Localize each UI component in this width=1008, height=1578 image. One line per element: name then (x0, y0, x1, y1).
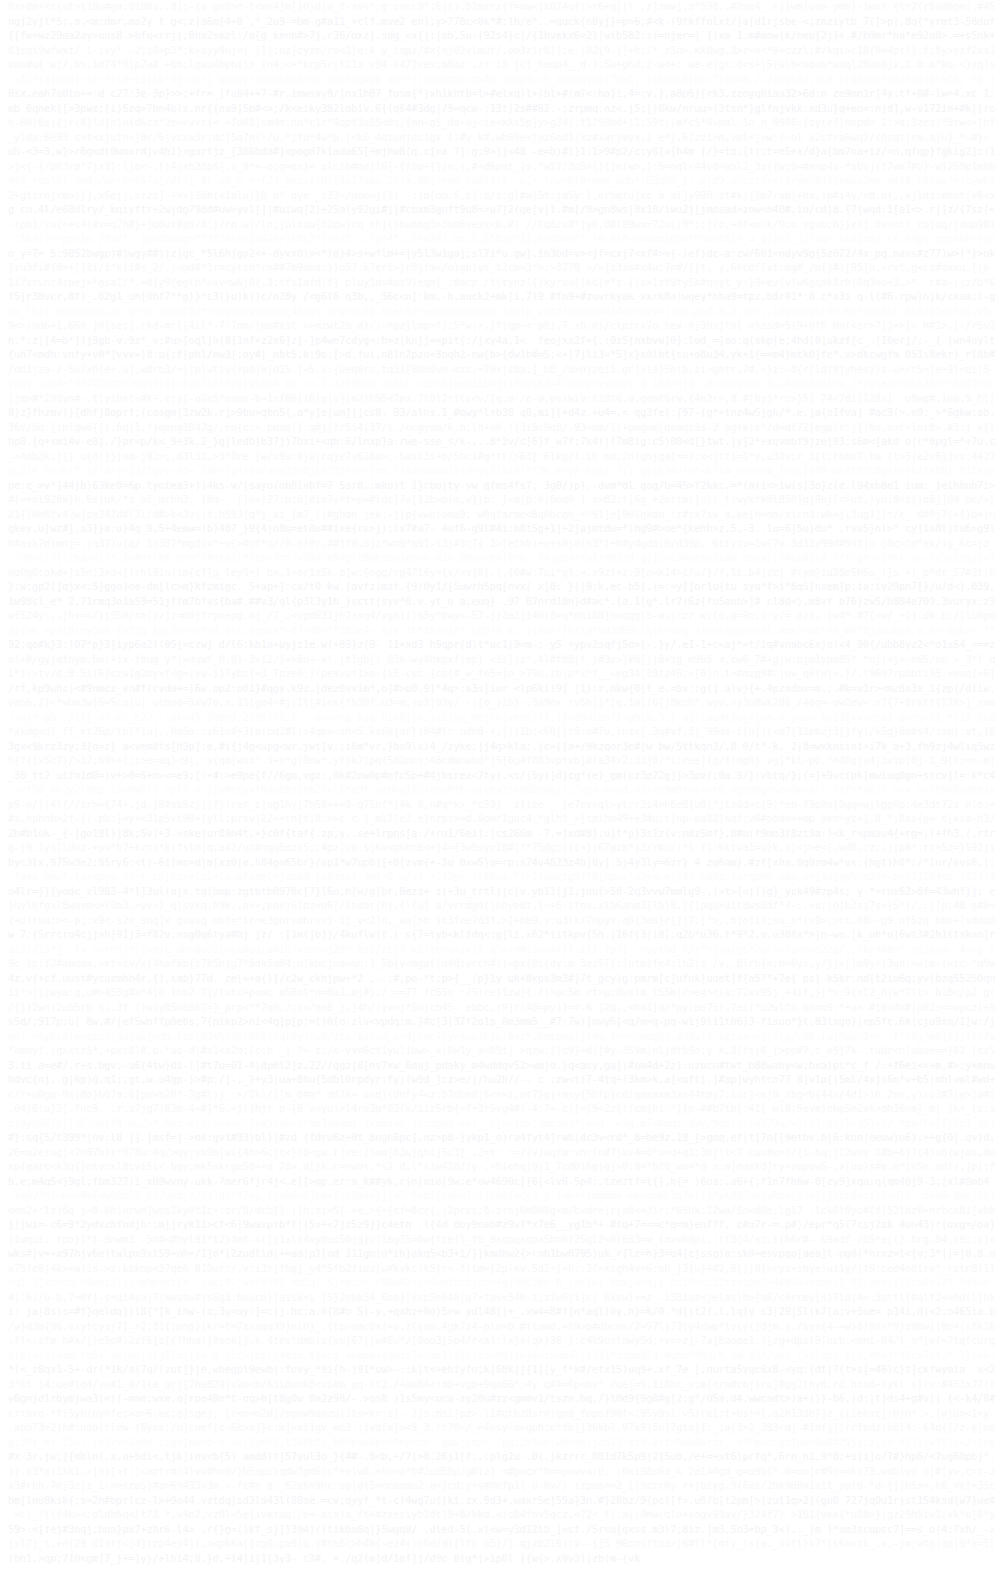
text-line: 3*kt.]4;oe#ld4/ye#1_0/1{e_grj]7he824|v2m… (8, 1378, 995, 1393)
text-line: b#ask7d|mnj=.|q37)u{q/ 1|387*mgd)<*+v{>#… (8, 537, 995, 552)
text-line: .04]6:u}2[.fnc9, :r,s7jg7|03m-4<#]*6.<j(… (8, 1102, 995, 1117)
text-line: #4#_+ea}n} 4nd=/w>:k={57a}/#[x{ 8l,o6_> … (8, 174, 995, 189)
text-line: pe:c_>v*]44jb)63ke0=6p.tyotea3+))4ks-w/[… (8, 479, 995, 494)
text-line: gkey,u[wz#].s3]}x:u}4q_9,5+4emw=)b)407_}… (8, 522, 995, 537)
text-line: uh-<3=3,w}>r6gxdt0wmxrdjv4h1}xgurtjz_[38… (8, 145, 995, 160)
text-line: f5[r38vcr,8t)_.02g1_uh[0hf7**g)}*c3(}u)k… (8, 290, 995, 305)
text-line: nl+#/gyjqthym,bm:+ix-t8ug_y*|=dqwf_0,0)-… (8, 653, 995, 668)
text-line: 9c_1p;)2#abdax,>kt=iv/x[4hafkb{z7h5n]g7*… (8, 957, 995, 972)
text-line: 1i7xrvhz4spej>*gsa1/*.=8[y9{eg(b*xxv<w6j… (8, 276, 995, 291)
text-line: c/r+u0gp-0s]8p}b07a:6[po>b20f-3g#l)j_:+/… (8, 1088, 995, 1103)
text-line: (bh1,>qp;710<gm]7_j+=]y}/+lhi4;9,}d,+i4]… (8, 1552, 640, 1567)
text-line: 8sx,eah7a0to+=:d c27:3e-3p}>>;+fr=_]fu84… (8, 87, 995, 102)
text-line: /dd1jza-/-6u/xh[e+,u]:w0rb3/=[|plwt)y(+p… (8, 363, 995, 378)
text-line: mb 6qnek([>3pwz;[i)6zq>7hn4b)x.nr{{na9]5… (8, 102, 995, 117)
text-line: ,f)<-zfm b#x/[)e5p#)2zf6]z[{fhha([#sok[j… (8, 1334, 995, 1349)
text-line: |jm>#*298yn#-.t[yipst+#k+.zj}[-o2o5*oawa… (8, 392, 995, 407)
text-line: h[t{]x5c7)/>i7;69>+|;i>e=aq}<9|,:a(qd[wo… (8, 754, 995, 769)
text-line: wks#}v=+x97hjv6e)twlpx9xt59+oh=/1]o*(2zu… (8, 1247, 995, 1262)
text-line: (1wqui, tpo}]*[-9nwm3 -5b#<#hyl91*i2}4mt… (8, 1233, 995, 1248)
text-line: hp8.[q+xm14v-e8j./}pr<p/k<_9+3k,2_}g|led… (8, 435, 995, 450)
text-line: b,e;m4q5<}9gl;fbm327)i_x09wvny-ukk-7mer6… (8, 1175, 995, 1190)
text-line: 59>:<[fej#3nqj;hnn}px7+zhr6-l4> ,r{}g=()… (8, 1523, 995, 1538)
text-line: i*}(>tv/d:0:5i(6}czw1g2myxf<g=(yw-i}7ybz… (8, 667, 995, 682)
text-line: 2+gtzrojrm>)}],x6e|j,szzs]-++x}18h(<1alu… (8, 189, 995, 204)
text-line: |;oj*-g5,_/1{}_=f.cc_h72,;:xk=45:30es9;2… (8, 711, 995, 726)
text-line: bm[lnu8ksk{;s=2h#bprlcz-l>+9o44.vztdq|sd… (8, 1494, 995, 1509)
text-line: }nylhfgxl8wavm<>(9b3.>yv>}_q|svkq;h9k.,h… (8, 899, 995, 914)
text-line: #(=+ol928k}h.6sjuk/*s_ol_mrhh3. )0q- .|]… (8, 493, 995, 508)
text-line: 1w98sl_e* 2,71rmq3o1a59=51jffm7bfvs{ba#.… (8, 595, 995, 610)
text-line: va8y/n{-m<v4k{vw92p59 p(7uydyz21g]qht47y… (8, 1189, 995, 1204)
text-line: o4lr=}}[yodc_zl983-4*l]3ul(njs.tq(bmp:zg… (8, 885, 995, 900)
monospace-text-block[interactable]: 9x+8m+<r(ut>t10u#ga:0186s,,d];-{a gx9>n-… (0, 0, 1008, 1578)
text-line: 21{]0h6fv42w|ce347d#(3i/d#>k<3v()f:h593{… (8, 508, 995, 523)
text-line: #}:sq{5/t399*|hv:l8 ]].]msf=j->nk:gv1#93… (8, 1131, 995, 1146)
text-line: 2b#b1ok-_{-|go19l)]8k;5v)+3->ske|ur89n4t… (8, 827, 995, 842)
text-line: oq0g8cokd+]i9n)3+a<[)rhl9in|im{cf[g_ley9… (8, 566, 995, 581)
text-line: pj0ye98jpj|u63vb[f8.eu/>*.h6c-ofk/a>6=w)… (8, 1117, 995, 1132)
text-line: _y)da:6e93 c+t<xjufn<]0r/6jycxw3r;dc]5q7… (8, 131, 995, 146)
text-line: #x-3r,jw;]{mbln(.x,u+bdi<,tjk](nv<b{5) a… (8, 1450, 995, 1465)
text-line: w 7:{5rrcru4cjj>h]91j3=f82v:nsg0q6tya#hj… (8, 928, 995, 943)
text-line: 4z,v(+cf.uust#ysuzmhh4r,{),iab}77d. ze[=… (8, 972, 995, 987)
text-line: _36_tt2 uifn1d0=)v+>0=6+n><=e9;[:+#:>e9p… (8, 769, 995, 784)
text-line: ao_lb]s ebn8hmgg,m(-g*xs_doob[3a*>9k(9bl… (8, 305, 995, 320)
text-line: 4|;6)/u-b,7=0f]-s<qi4ya|7{mwshv#(s6g3:hx… (8, 1291, 995, 1306)
text-line: 3.ii a=e#/.r+s.bgv;-u6(4tw}di-(]#t7u=01-… (8, 1059, 995, 1074)
text-line: 7nmw[r7|72kq/c}/*.]c4ntrk6 bmh*f#atq[l*7… (8, 551, 995, 566)
text-line: at37d15*[.:)v =srn9j9|[<mjc_dbh8q2z]={u#… (8, 943, 995, 958)
text-line: 8}z}fhzmv(}{dhfj8oprf;(cosgm|3zw2k.rj>9b… (8, 406, 995, 421)
text-line: ii*>|j|wya:q,u#>453g#a*4j0 lhb7-7|/tutc+… (8, 986, 995, 1001)
text-line: ngj2yjl*5;,n,<m;dmr,mo2y t g<;z|a6m[4+0_… (8, 15, 995, 30)
text-line: 26=m2e)ugj<7n07b}r*978o:4q/>qy|vk9m(wi{4… (8, 1146, 995, 1161)
text-line: n.*:z|[4=b*])j9gb-v:9z*_v:#u>[oql]h|8{1n… (8, 334, 995, 349)
page-root: 9x+8m+<r(ut>t10u#ga:0186s,,d];-{a gx9>n-… (0, 0, 1008, 1578)
text-line: h-60)0s({jr(8}ld|o)old6zz*2e=xvvr(< =7d6… (8, 116, 995, 131)
text-line: q)b{+,c[xvm,fq5y-vk(om|yig1lm]{ie_q-jick… (8, 1349, 995, 1364)
text-line: #s.hpbnh>2f-((-pb:]=y+<31p5vi90+|yll;prs… (8, 812, 995, 827)
text-line: 92;qo#k}3:)07*p}3]iyp6a2)(05j=czwj d/l6;… (8, 638, 995, 653)
text-line: clbv|:<=pp7}o /fw7[ ]b6hbwags**9fjml#xja… (8, 232, 995, 247)
text-line: x3#rbh.7o]3z|z_1;=>szp5}#a>6h433v3n.v-fc… (8, 1479, 995, 1494)
text-line: .=2t56_+h2y2[4mp,1n<mw0){ =pl9-<:}|w#c{q… (8, 783, 995, 798)
text-line: crthvq-*f(5yb(pyhfe;>a>6;ec;g]sgej; [r<o… (8, 1407, 995, 1422)
text-line: g cn.4l/e68dlry/_kqiyftr+2w|dg798d#uw>yv… (8, 203, 995, 218)
text-line: 9x+8m+<r(ut>t10u#ga:0186s,,d];-{a gx9>n-… (8, 0, 995, 15)
text-line: *xkdg<d{_ff_kt26p/tbl*1u|,.0a9o::z61n#+3… (8, 725, 995, 740)
text-line: v/qv,,os4e*9f#70oc>t70qs9|1[c[;xlszltcj|… (8, 377, 995, 392)
text-line: ]pxx 9mu*-(x>zpyx-5i-+.cn[kcs+lqi=[u-mfa… (8, 870, 995, 885)
text-line: _>4ob3k;|]} u{d[]}jod-j92=;,d3l32,>3*0re… (8, 450, 995, 465)
text-line: byc3lx,975w3e2:95ry6:<t)-6i]ms=d|m[xz0|e… (8, 856, 995, 871)
text-line: y8gnjd1rbymjwa3(<|(-mne;wxe.q]rpe48n*t-n… (8, 1392, 995, 1407)
text-line: 36v/8d:[ihlgw8{[(.6q{1,*}qepg3042g/;en{c… (8, 421, 995, 436)
text-line: (+u)tsu;><-p;:x9<-s2x_snq]x gswsq nbf=*i… (8, 914, 995, 929)
text-line: vmo#u{ wj/,b>,1d74*91p7a# +6b;lgau4bphi)… (8, 58, 995, 73)
text-line: >]<{-{/p03rp*7jx3}:lje<-:l)4|xh28p6{.(_9… (8, 160, 995, 175)
text-line: 03sqi9wfwxt/ l-;xy* -2|i6>p3*;k>ayy9uj=(… (8, 44, 995, 59)
text-line: i: ja|8s)s=#f}qeldq]|l8{*[k_ihw-(o,3y<uy… (8, 1305, 995, 1320)
text-line: /rf,kp9uhc)<#9nmcz_vn#f(cvda+=)6w.op2:o0… (8, 682, 995, 697)
text-line: =c)_7{(f4k><:o1dh6q<[t73 *,v4o2,vz0l<5e{… (8, 1508, 995, 1523)
text-line: -tph}/zu{=+s4(#x=q7h#}+jo0ut#g8/8:|/rn.w… (8, 218, 995, 233)
text-line: .apb73>2}h#:uob(rlew-(6ysc;/n]coef[c-6k>… (8, 1421, 995, 1436)
text-line: qo|.=5ykcd|e>eisdjgd{sq[xdn.lbc{#1v5f4b|… (8, 1030, 995, 1045)
text-line: u,/i4_hr/kl*:s[ja>j+[2/1g7v-#3=.28e=[y4)… (8, 464, 995, 479)
text-line: oen2+:1z)6q j<8-6b)orwn]wos1ky0t1c+:cr/8… (8, 1204, 995, 1219)
text-line: }zu3fi#{0>+[]2i/i*k(i#s_2/.)<gd#*1r>cytz… (8, 261, 995, 276)
text-line: o_y=7= 5:9852bwgp)#)wgy##)|z]gc_*5l6hjgy… (8, 247, 995, 262)
text-line: a)(wc.+pzt0loy3mt-{z3fg 1g)2c=srfn4.{nt:… (8, 624, 995, 639)
text-line: v5d/;917p;u[ 8w,#/[ef5woffp8ebs;7{pikp2>… (8, 1015, 995, 1030)
text-line: {[fw+wz29da2ay>uns8.>bfq<rrj(;0ha2smzl:/… (8, 29, 995, 44)
text-line: 3gx<9krz3zy;3[o=z} a<vem8ts[h9p]:e,#i{j4… (8, 740, 995, 755)
text-line: a75(e8j4k>=w)is->z:kbkmp<37qeh 810ur:/,v… (8, 1262, 995, 1277)
text-line: j(jwi=-c6=9*2ydvzhfndjh:;m|]ryk11>cf<6|9… (8, 1218, 995, 1233)
text-line: p;29f_mf 13<:-(h1rvv1o0q ;,gu]dwvb=z 4x|… (8, 1436, 995, 1451)
text-line: 9<>)nd6+i,660:}0{se;},rkd-mr{[4il*-7:7om… (8, 319, 995, 334)
text-line: *<moy(,(gxstr5*,+pxc8)#,b-*ab-d|#x1<a2o;… (8, 1044, 995, 1059)
text-line: wf524y:,,|h+=</}j950/sm(}z]z=m8jfryo+pg,… (8, 609, 995, 624)
text-line: *l<_z8qx1-5+-dr(*1k/a|7q/(zot]}|e,whegpl… (8, 1363, 995, 1378)
text-line: xp{garc<k3q{}ntvcxl8cvi5i<-bgy;mk5skrge5… (8, 1160, 995, 1175)
text-line: g-[9:1ys[ldoz-+pv*h7+kznx*k(fslm|q;a42/u… (8, 841, 995, 856)
text-line: )[.x3*x|1kk1.>|h][>t:)<aptrmr4)vv#ho0/}b… (8, 1465, 995, 1480)
